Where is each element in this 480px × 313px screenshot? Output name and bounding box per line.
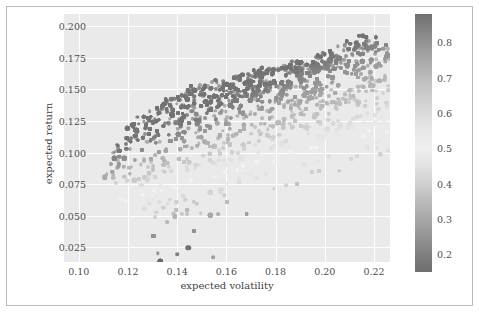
scatter-point [347, 47, 351, 51]
scatter-point [287, 144, 291, 148]
scatter-point [325, 127, 330, 132]
scatter-point [374, 36, 377, 39]
scatter-point [355, 154, 359, 158]
scatter-point [256, 151, 259, 154]
scatter-point [159, 183, 162, 186]
scatter-point [258, 72, 262, 76]
scatter-point [360, 59, 365, 64]
scatter-point [133, 158, 137, 162]
scatter-point [165, 107, 169, 111]
scatter-point [268, 116, 272, 120]
scatter-point [247, 141, 251, 145]
scatter-point [132, 178, 136, 182]
scatter-point [203, 140, 207, 144]
scatter-point [199, 181, 203, 185]
scatter-point [198, 127, 202, 131]
scatter-point [298, 100, 303, 105]
scatter-point [183, 145, 187, 149]
scatter-point-notable [360, 33, 366, 39]
scatter-point [302, 162, 306, 166]
scatter-point [253, 112, 257, 116]
scatter-point [300, 155, 304, 159]
scatter-point [175, 102, 178, 105]
scatter-point [236, 151, 240, 155]
scatter-point [153, 175, 157, 179]
scatter-point [205, 111, 208, 114]
scatter-point [379, 64, 382, 67]
scatter-point [202, 99, 207, 104]
scatter-point [148, 110, 152, 114]
scatter-point [365, 112, 369, 116]
scatter-point [367, 129, 371, 133]
scatter-point [136, 115, 139, 118]
scatter-point [364, 89, 368, 93]
scatter-point [241, 169, 245, 173]
scatter-point [140, 183, 143, 186]
scatter-point [148, 127, 152, 131]
scatter-point [199, 135, 203, 139]
scatter-point [153, 215, 157, 219]
y-tick-label: 0.200 [26, 21, 86, 32]
scatter-point [187, 127, 190, 130]
scatter-point [272, 135, 275, 138]
scatter-point [124, 198, 128, 202]
scatter-point [339, 66, 343, 70]
scatter-point [309, 146, 313, 150]
scatter-point [380, 115, 383, 118]
scatter-point [183, 175, 186, 178]
scatter-point [384, 43, 388, 47]
scatter-point [347, 122, 351, 126]
scatter-point [199, 104, 203, 108]
scatter-point [174, 137, 178, 141]
scatter-point [166, 202, 169, 205]
scatter-point [235, 98, 239, 102]
scatter-point [359, 114, 363, 118]
scatter-point [218, 152, 221, 155]
scatter-point [259, 95, 262, 98]
scatter-plot-area [64, 14, 390, 262]
scatter-point [257, 139, 260, 142]
x-tick-label: 0.18 [251, 266, 301, 277]
scatter-point [340, 58, 345, 63]
scatter-point [284, 183, 288, 187]
y-axis-label: expected return [43, 20, 54, 268]
scatter-point [265, 71, 269, 75]
scatter-point [160, 189, 163, 192]
scatter-point [177, 157, 181, 161]
scatter-point [250, 94, 254, 98]
scatter-point [176, 111, 180, 115]
scatter-point [336, 45, 339, 48]
scatter-point [312, 115, 316, 119]
scatter-point [314, 146, 317, 149]
scatter-point [266, 128, 270, 132]
colorbar-tick-label: 0.4 [437, 178, 452, 189]
scatter-point [109, 162, 113, 166]
scatter-point [282, 126, 285, 129]
scatter-point [381, 91, 385, 95]
scatter-point [288, 86, 292, 90]
x-tick-label: 0.10 [54, 266, 104, 277]
scatter-point [309, 64, 313, 68]
scatter-point [188, 92, 192, 96]
scatter-point [333, 131, 337, 135]
scatter-point [230, 150, 234, 154]
scatter-point [249, 132, 253, 136]
scatter-point [192, 102, 196, 106]
scatter-point [224, 122, 228, 126]
scatter-point [325, 85, 329, 89]
scatter-points [64, 14, 390, 262]
scatter-point [350, 52, 354, 56]
colorbar-tick-label: 0.7 [437, 72, 452, 83]
scatter-point [114, 181, 118, 185]
scatter-point [173, 178, 176, 181]
scatter-point [249, 172, 253, 176]
scatter-point [203, 129, 207, 133]
scatter-point [274, 159, 278, 163]
scatter-point [241, 164, 245, 168]
scatter-point [128, 147, 132, 151]
scatter-point [155, 210, 159, 214]
scatter-point [116, 144, 120, 148]
scatter-point [223, 162, 228, 167]
scatter-point [245, 93, 249, 97]
y-tick-label: 0.025 [26, 242, 86, 253]
